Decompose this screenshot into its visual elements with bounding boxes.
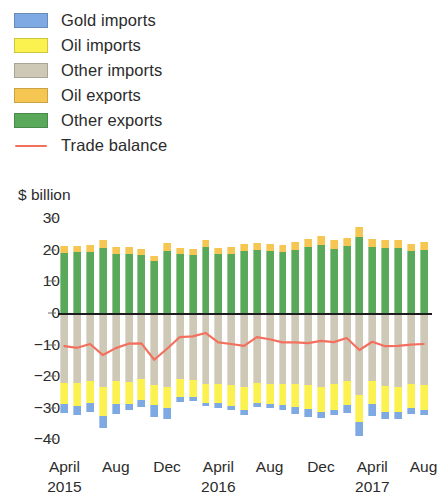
legend-item-trade-balance[interactable]: Trade balance [14, 134, 167, 156]
bar-column[interactable] [407, 212, 415, 452]
x-axis-month: Aug [256, 458, 284, 475]
bar-segment-oil-imports [381, 386, 389, 412]
bar-column[interactable] [394, 212, 402, 452]
bar-column[interactable] [112, 212, 120, 452]
bar-segment-other-imports [317, 313, 325, 387]
bar-segment-other-exports [394, 248, 402, 313]
bar-segment-gold-imports [73, 406, 81, 415]
bar-column[interactable] [317, 212, 325, 452]
bar-column[interactable] [202, 212, 210, 452]
x-axis-year: 2016 [201, 478, 235, 496]
bar-column[interactable] [266, 212, 274, 452]
bar-segment-oil-exports [381, 240, 389, 248]
bar-segment-oil-exports [137, 249, 145, 255]
legend-item-oil-exports[interactable]: Oil exports [14, 84, 141, 106]
bar-column[interactable] [214, 212, 222, 452]
bar-column[interactable] [227, 212, 235, 452]
bar-column[interactable] [150, 212, 158, 452]
bar-segment-oil-exports [291, 242, 299, 250]
bar-segment-oil-imports [317, 387, 325, 412]
bar-segment-other-exports [86, 252, 94, 313]
bar-column[interactable] [86, 212, 94, 452]
bar-segment-other-imports [150, 313, 158, 385]
bar-column[interactable] [137, 212, 145, 452]
bar-column[interactable] [125, 212, 133, 452]
bar-column[interactable] [73, 212, 81, 452]
legend-label-gold-imports: Gold imports [61, 12, 156, 29]
bar-segment-oil-imports [304, 385, 312, 408]
bar-column[interactable] [99, 212, 107, 452]
bar-segment-oil-imports [125, 382, 133, 404]
bar-segment-oil-exports [394, 240, 402, 248]
zero-axis-line [58, 313, 432, 315]
bar-segment-oil-exports [202, 240, 210, 247]
bar-segment-other-exports [125, 254, 133, 313]
bar-segment-oil-imports [99, 387, 107, 417]
bar-column[interactable] [176, 212, 184, 452]
bar-segment-oil-exports [214, 248, 222, 254]
plot-area: 3020100−10−20−30−40 [0, 212, 434, 452]
y-axis-tick-mark [48, 313, 56, 314]
bar-segment-gold-imports [227, 406, 235, 410]
x-axis: April2015AugDecApril2016AugDecApril2017A… [0, 458, 434, 504]
legend-swatch-trade-balance-icon [14, 138, 48, 153]
bar-segment-gold-imports [253, 403, 261, 407]
bar-segment-oil-imports [355, 395, 363, 422]
legend-item-oil-imports[interactable]: Oil imports [14, 34, 141, 56]
bar-segment-oil-exports [407, 244, 415, 252]
bar-column[interactable] [355, 212, 363, 452]
legend-item-other-exports[interactable]: Other exports [14, 109, 162, 131]
bar-column[interactable] [291, 212, 299, 452]
bar-column[interactable] [279, 212, 287, 452]
legend-item-gold-imports[interactable]: Gold imports [14, 9, 156, 31]
bar-column[interactable] [163, 212, 171, 452]
bar-segment-other-imports [394, 313, 402, 387]
bar-column[interactable] [253, 212, 261, 452]
bar-segment-gold-imports [240, 410, 248, 415]
bar-segment-other-imports [99, 313, 107, 387]
bar-segment-other-exports [112, 254, 120, 313]
bar-segment-other-exports [253, 250, 261, 313]
bar-segment-gold-imports [343, 405, 351, 413]
bar-segment-other-exports [202, 247, 210, 313]
y-axis-tick-mark [48, 218, 56, 219]
bar-column[interactable] [343, 212, 351, 452]
bar-column[interactable] [189, 212, 197, 452]
bar-segment-other-imports [176, 313, 184, 379]
x-axis-month: Aug [102, 458, 130, 475]
bar-segment-oil-exports [227, 247, 235, 254]
bar-segment-oil-imports [176, 379, 184, 397]
bar-column[interactable] [420, 212, 428, 452]
bar-column[interactable] [304, 212, 312, 452]
bar-segment-oil-exports [189, 249, 197, 255]
bar-segment-oil-exports [125, 247, 133, 254]
chart-legend: Gold importsOil importsOther importsOil … [0, 0, 434, 170]
bar-segment-gold-imports [163, 408, 171, 419]
bar-segment-other-exports [266, 251, 274, 313]
bar-segment-oil-exports [355, 227, 363, 236]
bar-column[interactable] [60, 212, 68, 452]
legend-label-trade-balance: Trade balance [61, 137, 167, 154]
bar-column[interactable] [240, 212, 248, 452]
bar-segment-other-exports [99, 248, 107, 313]
bar-segment-gold-imports [291, 407, 299, 414]
bar-column[interactable] [381, 212, 389, 452]
bar-segment-oil-imports [420, 385, 428, 410]
legend-swatch-gold-imports-icon [14, 13, 48, 28]
bar-segment-oil-exports [240, 244, 248, 251]
legend-label-other-exports: Other exports [61, 112, 162, 129]
bar-segment-oil-exports [317, 236, 325, 245]
legend-item-other-imports[interactable]: Other imports [14, 59, 162, 81]
bar-column[interactable] [368, 212, 376, 452]
legend-swatch-oil-imports-icon [14, 38, 48, 53]
bar-segment-oil-exports [279, 245, 287, 252]
bar-segment-other-imports [343, 313, 351, 381]
bar-segment-gold-imports [330, 410, 338, 415]
bar-segment-other-exports [227, 254, 235, 313]
bar-segment-other-exports [343, 246, 351, 313]
x-axis-tick-label: Aug [102, 458, 130, 476]
x-axis-year: 2017 [355, 478, 389, 496]
bar-column[interactable] [330, 212, 338, 452]
bar-segment-oil-imports [291, 384, 299, 406]
legend-label-oil-imports: Oil imports [61, 37, 141, 54]
